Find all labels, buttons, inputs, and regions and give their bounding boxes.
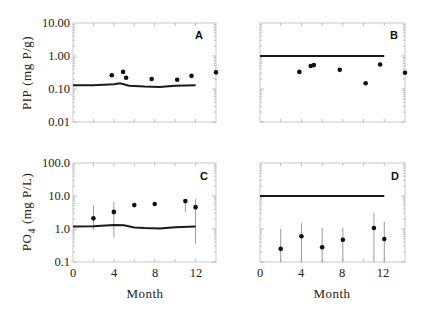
- data-point: [297, 70, 302, 75]
- panel-letter-d: D: [391, 170, 399, 182]
- svg-text:8: 8: [152, 266, 158, 280]
- data-point: [124, 75, 129, 80]
- xtick-labels-panel-d: 0 4 8 12: [257, 266, 389, 280]
- svg-text:8: 8: [339, 266, 345, 280]
- model-line: [73, 225, 196, 229]
- data-point: [378, 62, 383, 67]
- data-point: [152, 202, 157, 207]
- svg-text:4: 4: [111, 266, 118, 280]
- svg-text:12: 12: [377, 266, 390, 280]
- panel-b-plot: [260, 23, 407, 122]
- svg-text:10.0: 10.0: [48, 189, 70, 203]
- figure: PIP(mg P/g) PO4(mg P/L) 10.00 1.00 0.10 …: [0, 0, 426, 312]
- ytick-labels-panel-a: 10.00 1.00 0.10 0.01: [42, 16, 70, 129]
- svg-text:0.01: 0.01: [48, 115, 70, 129]
- svg-text:0.1: 0.1: [54, 255, 70, 269]
- data-point: [214, 70, 219, 75]
- data-point: [193, 205, 198, 210]
- svg-text:12: 12: [190, 266, 203, 280]
- xlabel-panel-c: Month: [126, 286, 163, 301]
- data-point: [312, 63, 317, 68]
- svg-text:10.00: 10.00: [42, 16, 70, 30]
- xlabel-panel-d: Month: [313, 286, 350, 301]
- data-point: [403, 70, 408, 75]
- data-point: [91, 216, 96, 221]
- data-point: [112, 210, 117, 215]
- data-point: [278, 247, 283, 252]
- panel-c-plot: [73, 163, 216, 262]
- panel-d-plot: [260, 163, 405, 262]
- ytick-labels-panel-c: 100.0 10.0 1.0 0.1: [42, 156, 70, 269]
- data-point: [299, 234, 304, 239]
- svg-text:0: 0: [257, 266, 263, 280]
- data-point: [110, 73, 115, 78]
- plot-frame: [73, 163, 216, 262]
- svg-text:0: 0: [70, 266, 76, 280]
- plot-frame: [260, 23, 405, 122]
- data-point: [189, 74, 194, 79]
- ylabel-panel-c: PO4(mg P/L): [19, 173, 37, 251]
- data-point: [337, 68, 342, 73]
- data-point: [175, 78, 180, 83]
- data-point: [382, 237, 387, 242]
- svg-text:4: 4: [298, 266, 305, 280]
- data-point: [121, 70, 126, 75]
- svg-text:100.0: 100.0: [42, 156, 70, 170]
- svg-text:1.0: 1.0: [54, 222, 70, 236]
- svg-text:0.10: 0.10: [48, 82, 70, 96]
- data-point: [183, 199, 188, 204]
- svg-text:1.00: 1.00: [48, 49, 70, 63]
- data-point: [372, 226, 377, 231]
- panel-letter-a: A: [195, 29, 203, 41]
- data-point: [341, 238, 346, 243]
- panel-letter-c: C: [200, 170, 208, 182]
- ylabel-panel-a: PIP(mg P/g): [19, 36, 34, 110]
- data-point: [132, 203, 137, 208]
- data-point: [320, 245, 325, 250]
- panel-letter-b: B: [390, 29, 398, 41]
- model-line: [73, 83, 196, 87]
- data-point: [149, 77, 154, 82]
- data-point: [363, 81, 368, 86]
- xtick-labels-panel-c: 0 4 8 12: [70, 266, 202, 280]
